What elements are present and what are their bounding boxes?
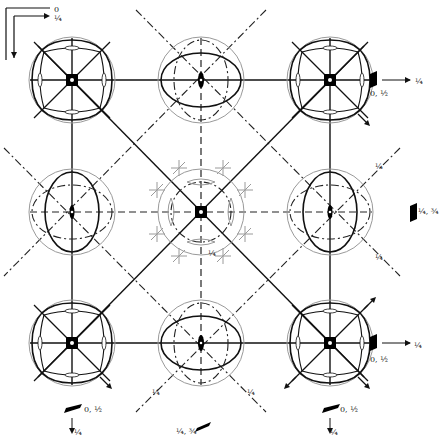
quarter-label-3: ¼	[152, 389, 160, 397]
plane-symbol-bottom-right	[322, 404, 340, 413]
lens-mark	[102, 336, 106, 350]
height-label-bottom-left: ¼	[74, 429, 82, 437]
plane-label-right-bottom: 0, ½	[370, 356, 388, 364]
lens-mark	[360, 336, 364, 350]
lens-mark	[38, 336, 42, 350]
fourfold-axis-center	[70, 78, 74, 82]
screw-axis-mark	[237, 226, 253, 242]
axis-y-arrowhead	[11, 52, 17, 58]
plane-symbol-right-top	[370, 71, 377, 88]
plane-label-bottom-mid: ¼, ¾	[176, 428, 197, 436]
lens-mark	[296, 73, 300, 87]
arrowhead-right-bottom	[405, 340, 411, 346]
fourfold-axis-center	[70, 341, 74, 345]
lens-mark	[65, 46, 79, 50]
fourfold-axis-center	[328, 78, 332, 82]
lens-mark	[360, 73, 364, 87]
height-label-right-bottom: ¼	[414, 342, 422, 350]
lens-mark	[65, 309, 79, 313]
twofold-axis-center	[71, 211, 74, 214]
lens-mark	[323, 373, 337, 377]
lens-mark	[65, 110, 79, 114]
plane-symbol-right-mid	[410, 203, 417, 222]
screw-axis-mark	[215, 160, 231, 176]
screw-axis-mark	[149, 182, 165, 198]
fourfold-axis-center	[328, 341, 332, 345]
quarter-label-1: ¼	[375, 163, 383, 171]
arrowhead-right-top	[405, 77, 411, 83]
twofold-axis-center	[200, 342, 203, 345]
screw-axis-mark	[237, 182, 253, 198]
quarter-label-4: ¼	[247, 389, 255, 397]
lens-mark	[102, 73, 106, 87]
screw-axis-mark	[149, 226, 165, 242]
lens-mark	[323, 46, 337, 50]
axis-x-arrowhead	[44, 13, 50, 19]
height-label-bottom-right: ¼	[330, 429, 338, 437]
twofold-axis-center	[200, 79, 203, 82]
lens-mark	[323, 110, 337, 114]
height-label-right-top: ¼	[415, 78, 423, 86]
axis-quarter-label: ¼	[54, 15, 62, 23]
origin-label: 0	[54, 6, 59, 14]
screw-axis-mark	[215, 248, 231, 264]
fourfold-axis-center	[199, 210, 203, 214]
plane-label-bottom-right: 0, ½	[340, 406, 358, 414]
plane-label-right-top: 0, ½	[370, 90, 388, 98]
twofold-axis-center	[329, 211, 332, 214]
plane-symbol-bottom-mid	[195, 422, 211, 432]
screw-axis-mark	[171, 160, 187, 176]
quarter-label-2: ¼	[375, 254, 383, 262]
lens-mark	[38, 73, 42, 87]
lens-mark	[323, 309, 337, 313]
quarter-label-5: ¼	[208, 250, 216, 258]
plane-symbol-bottom-left	[64, 404, 82, 413]
plane-label-bottom-left: 0, ½	[84, 406, 102, 414]
plane-label-right-mid: ¼, ¾	[418, 208, 439, 216]
lens-mark	[65, 373, 79, 377]
plane-symbol-right-bottom	[370, 334, 377, 351]
lens-mark	[296, 336, 300, 350]
screw-axis-mark	[171, 248, 187, 264]
